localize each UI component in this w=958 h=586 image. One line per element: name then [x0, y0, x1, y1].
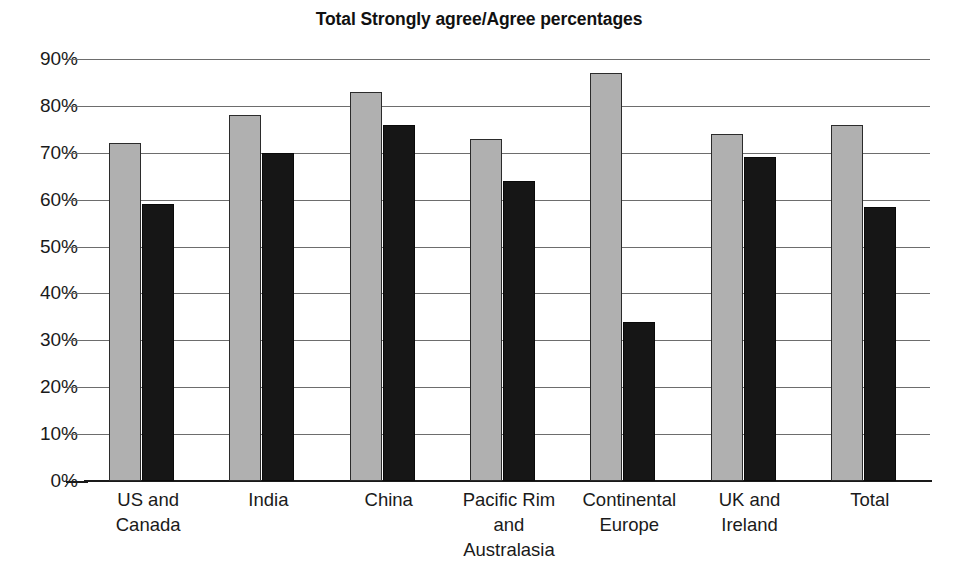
bar	[503, 181, 535, 481]
x-axis-category-line: Ireland	[689, 512, 809, 537]
bar	[262, 153, 294, 481]
bar	[142, 204, 174, 481]
y-axis-tick-mark	[66, 106, 88, 107]
x-axis-category-line: Pacific Rim	[449, 487, 569, 512]
y-axis-tick-mark	[66, 200, 88, 201]
x-axis-category-label: China	[329, 487, 449, 512]
x-axis-category-line: Total	[810, 487, 930, 512]
bar	[383, 125, 415, 481]
y-axis-tick-mark	[66, 340, 88, 341]
bar	[109, 143, 141, 481]
bar	[350, 92, 382, 481]
bar-group	[590, 59, 656, 481]
plot-area: 90%80%70%60%50%40%30%20%10%0%	[88, 59, 930, 481]
x-axis-category-label: UK andIreland	[689, 487, 809, 537]
x-axis-category-line: India	[208, 487, 328, 512]
y-axis-tick-mark	[66, 481, 88, 483]
bar-chart: Total Strongly agree/Agree percentages 9…	[0, 0, 958, 586]
x-axis-category-line: Canada	[88, 512, 208, 537]
bar	[864, 207, 896, 481]
bar	[590, 73, 622, 481]
y-axis-tick-mark	[66, 434, 88, 435]
x-axis-category-label: Total	[810, 487, 930, 512]
bar-group	[831, 59, 897, 481]
x-axis-category-line: Australasia	[449, 537, 569, 562]
bar-group	[229, 59, 295, 481]
bar	[470, 139, 502, 481]
x-axis-category-label: Pacific RimandAustralasia	[449, 487, 569, 562]
chart-title: Total Strongly agree/Agree percentages	[0, 9, 958, 30]
y-axis-tick-mark	[66, 293, 88, 294]
bar	[623, 322, 655, 481]
x-axis-category-line: US and	[88, 487, 208, 512]
bar	[744, 157, 776, 481]
bar	[229, 115, 261, 481]
x-axis-category-line: China	[329, 487, 449, 512]
x-axis-category-line: Continental	[569, 487, 689, 512]
x-axis-category-line: UK and	[689, 487, 809, 512]
x-axis-category-line: Europe	[569, 512, 689, 537]
bars-layer	[88, 59, 930, 481]
y-axis-tick-mark	[66, 247, 88, 248]
x-axis-category-label: US andCanada	[88, 487, 208, 537]
y-axis-tick-mark	[66, 153, 88, 154]
bar-group	[711, 59, 777, 481]
bar-group	[350, 59, 416, 481]
bar-group	[109, 59, 175, 481]
bar	[831, 125, 863, 481]
bar	[711, 134, 743, 481]
x-axis-category-line: and	[449, 512, 569, 537]
x-axis-category-label: ContinentalEurope	[569, 487, 689, 537]
x-axis-category-label: India	[208, 487, 328, 512]
bar-group	[470, 59, 536, 481]
y-axis-tick-mark	[66, 59, 88, 60]
y-axis-tick-mark	[66, 387, 88, 388]
x-axis-category-labels: US andCanadaIndiaChinaPacific RimandAust…	[88, 487, 930, 582]
